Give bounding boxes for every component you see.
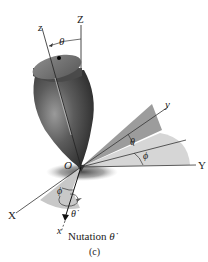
figure-title: Nutation θ̇ [68, 230, 115, 242]
y-axis-label: y [165, 99, 170, 110]
phi-label-left: ϕ [57, 186, 62, 196]
x-axis-dashed [61, 221, 65, 232]
nutation-rotation-arrowhead [76, 198, 82, 202]
z-axis-label: z [38, 22, 42, 33]
spinning-top-diagram: Z z θ y θ ϕ Y O ϕ θ̇ X x Nutation θ̇ (c) [0, 0, 208, 262]
figure-caption: (c) [89, 246, 100, 257]
origin-label: O [64, 160, 72, 171]
theta-dot-arrowhead [62, 214, 69, 221]
cap-marker-dot [57, 56, 61, 60]
diagram-graphics [0, 0, 208, 262]
figure-title-symbol: θ̇ [109, 230, 114, 242]
figure-title-text: Nutation [68, 230, 107, 242]
X-axis-label: X [8, 210, 16, 221]
theta-label-top: θ [59, 36, 64, 47]
phi-label-right: ϕ [143, 151, 148, 161]
Y-axis-label: Y [198, 160, 206, 171]
top-body [33, 70, 93, 168]
theta-dot-label: θ̇ [71, 209, 76, 219]
theta-arrow-top [49, 43, 53, 47]
theta-arc-top [49, 39, 81, 46]
theta-label-right: θ [130, 137, 135, 147]
Z-axis-label: Z [77, 14, 84, 25]
x-axis-label: x [57, 226, 61, 236]
